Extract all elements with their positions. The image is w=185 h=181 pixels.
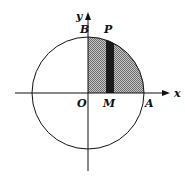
label-P: P [103, 23, 113, 36]
label-B: B [79, 23, 89, 36]
label-x: x [173, 87, 181, 100]
y-axis-arrow [85, 12, 91, 20]
label-M: M [102, 97, 116, 110]
dark-strip [106, 30, 114, 93]
label-A: A [144, 97, 154, 110]
x-axis-arrow [162, 90, 170, 96]
label-y: y [75, 10, 84, 23]
diagram: x y B P O M A [0, 0, 185, 181]
circle-diagram: x y B P O M A [0, 0, 185, 181]
label-O: O [77, 97, 87, 110]
shaded-quadrant [88, 37, 144, 93]
